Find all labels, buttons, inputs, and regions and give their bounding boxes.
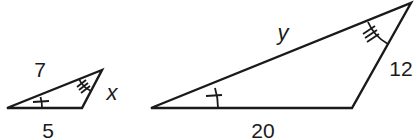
small-left-angle-arc	[41, 97, 43, 108]
large-bottom-side-label: 20	[251, 119, 274, 140]
large-left-angle-arc	[215, 88, 218, 108]
small-bottom-side-label: 5	[42, 119, 54, 140]
large-left-angle-tick	[206, 95, 222, 96]
large-top-side-label: y	[276, 20, 291, 45]
small-top-side-label: 7	[34, 58, 46, 81]
small-right-side-label: x	[106, 80, 119, 105]
large-triangle-outline	[151, 3, 411, 108]
large-right-side-label: 12	[389, 57, 412, 80]
large-triangle	[151, 3, 411, 108]
small-left-angle-tick	[33, 101, 49, 102]
similar-triangles-diagram: 7 x 5 y 12 20	[0, 0, 420, 140]
small-triangle	[7, 70, 102, 108]
